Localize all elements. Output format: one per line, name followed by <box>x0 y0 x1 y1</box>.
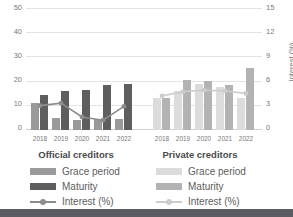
legend-label-interest: Interest (%) <box>188 196 240 208</box>
bar-group-2020 <box>72 8 92 130</box>
x-tick-private-2020: 2020 <box>193 135 215 143</box>
bar-maturity-2018 <box>40 95 48 130</box>
bar-maturity-2020 <box>204 81 212 130</box>
legend-swatch-grace-icon <box>156 168 182 175</box>
bar-group-2022 <box>236 8 256 130</box>
y-tick-left-0: 0 <box>4 124 22 132</box>
bar-maturity-2020 <box>82 90 90 130</box>
y-tick-right-3: 3 <box>266 100 286 108</box>
bar-maturity-2019 <box>183 80 191 131</box>
legend-label-maturity: Maturity <box>62 181 98 193</box>
bar-maturity-2022 <box>246 68 254 130</box>
plot-area: 2018 2019 2020 2021 2022 2018 2019 2020 … <box>26 8 262 130</box>
y-tick-left-10: 10 <box>4 100 22 108</box>
group-official-creditors: 2018 2019 2020 2021 2022 <box>30 8 136 130</box>
x-tick-official-2020: 2020 <box>71 135 93 143</box>
y-tick-right-12: 12 <box>266 28 286 36</box>
x-tick-private-2018: 2018 <box>151 135 173 143</box>
x-tick-private-2019: 2019 <box>172 135 194 143</box>
legend-swatch-grace-icon <box>30 168 56 175</box>
y-tick-left-30: 30 <box>4 52 22 60</box>
bars-official <box>30 8 136 130</box>
bar-group-2019 <box>173 8 193 130</box>
bar-grace-2021 <box>94 119 102 130</box>
legend-label-grace: Grace period <box>62 166 120 178</box>
bar-grace-2020 <box>195 84 203 130</box>
bar-grace-2022 <box>237 98 245 130</box>
bars-private <box>152 8 258 130</box>
bar-grace-2022 <box>115 119 123 130</box>
y-axis-right-title: Interest (%) <box>288 32 293 92</box>
y-tick-left-40: 40 <box>4 28 22 36</box>
legend-label-maturity: Maturity <box>188 181 224 193</box>
bar-maturity-2021 <box>225 85 233 130</box>
group-title-private: Private creditors <box>140 149 260 160</box>
legend-swatch-maturity-icon <box>156 183 182 190</box>
legend-line-marker-icon <box>156 198 182 205</box>
legend-item-maturity-official[interactable]: Maturity <box>30 179 160 194</box>
bar-group-2020 <box>194 8 214 130</box>
y-tick-left-50: 50 <box>4 4 22 12</box>
x-tick-official-2019: 2019 <box>50 135 72 143</box>
bar-grace-2019 <box>52 118 60 130</box>
legend-label-grace: Grace period <box>188 166 246 178</box>
bottom-accent-bar <box>0 209 293 217</box>
bar-grace-2020 <box>73 120 81 130</box>
bar-maturity-2022 <box>124 84 132 130</box>
group-private-creditors: 2018 2019 2020 2021 2022 <box>152 8 258 130</box>
group-title-official: Official creditors <box>16 149 136 160</box>
legend-swatch-maturity-icon <box>30 183 56 190</box>
x-tick-official-2018: 2018 <box>29 135 51 143</box>
bar-grace-2021 <box>216 87 224 130</box>
y-tick-right-9: 9 <box>266 52 286 60</box>
bar-group-2019 <box>51 8 71 130</box>
x-tick-official-2021: 2021 <box>92 135 114 143</box>
bar-group-2021 <box>93 8 113 130</box>
legend-item-interest-official[interactable]: Interest (%) <box>30 194 160 209</box>
chart-container: Years Interest (%) 50 40 30 20 10 0 15 1… <box>0 0 293 217</box>
bar-group-2018 <box>152 8 172 130</box>
bar-grace-2018 <box>153 98 161 130</box>
legend-line-marker-icon <box>30 198 56 205</box>
bar-grace-2018 <box>31 103 39 130</box>
legend-official: Grace period Maturity Interest (%) <box>30 164 160 209</box>
bar-group-2021 <box>215 8 235 130</box>
y-tick-right-0: 0 <box>266 124 286 132</box>
legend-label-interest: Interest (%) <box>62 196 114 208</box>
legend-item-maturity-private[interactable]: Maturity <box>156 179 286 194</box>
bar-group-2022 <box>114 8 134 130</box>
legend-item-grace-private[interactable]: Grace period <box>156 164 286 179</box>
bar-grace-2019 <box>174 91 182 130</box>
y-tick-left-20: 20 <box>4 76 22 84</box>
bar-maturity-2019 <box>61 91 69 130</box>
bar-maturity-2018 <box>162 98 170 130</box>
y-tick-right-6: 6 <box>266 76 286 84</box>
x-tick-private-2021: 2021 <box>214 135 236 143</box>
y-tick-right-15: 15 <box>266 4 286 12</box>
legend-item-grace-official[interactable]: Grace period <box>30 164 160 179</box>
bar-maturity-2021 <box>103 85 111 130</box>
x-tick-official-2022: 2022 <box>113 135 135 143</box>
bar-group-2018 <box>30 8 50 130</box>
legend-private: Grace period Maturity Interest (%) <box>156 164 286 209</box>
legend-item-interest-private[interactable]: Interest (%) <box>156 194 286 209</box>
x-tick-private-2022: 2022 <box>235 135 257 143</box>
